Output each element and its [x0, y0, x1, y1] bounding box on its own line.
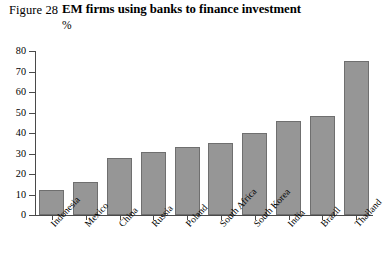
bar-series [35, 51, 373, 215]
bar [107, 158, 132, 215]
y-axis-tick-label: 70 [0, 67, 26, 77]
bar [310, 116, 335, 215]
bar-chart: 01020304050607080 IndonesiaMexicoChinaRu… [0, 0, 389, 277]
y-axis-tick-label: 80 [0, 46, 26, 56]
y-axis-tick-label: 10 [0, 190, 26, 200]
y-axis-tick-label: 20 [0, 169, 26, 179]
y-axis-tick-label: 40 [0, 128, 26, 138]
y-axis-tick-label: 30 [0, 149, 26, 159]
bar [344, 61, 369, 215]
y-axis-tick-mark [29, 215, 35, 216]
bar [208, 143, 233, 215]
y-axis-tick-label: 0 [0, 210, 26, 220]
y-axis-tick-label: 60 [0, 87, 26, 97]
bar [175, 147, 200, 215]
y-axis-tick-label: 50 [0, 108, 26, 118]
